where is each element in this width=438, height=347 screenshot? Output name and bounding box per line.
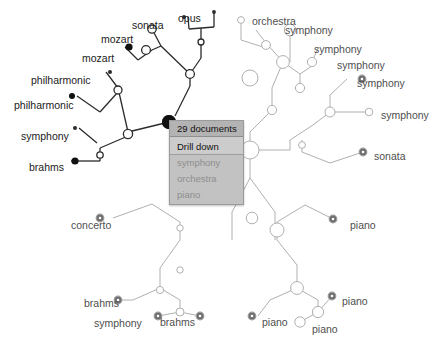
tree-edge-active [100,136,128,148]
tree-node-dim[interactable] [177,267,183,273]
tree-edge-dim [160,240,180,268]
context-menu-option-symphony[interactable]: symphony [170,155,243,171]
tree-node-dim[interactable] [267,105,276,114]
node-label-symphony-r5: symphony [381,110,429,121]
tree-leaf-node-small[interactable] [73,126,77,130]
tree-node-active[interactable] [186,70,195,79]
node-label-sonata-top: sonata [132,20,164,31]
tree-node-dim[interactable] [177,225,183,231]
node-label-mozart-1: mozart [101,34,133,45]
tree-leaf-node-core [362,151,365,154]
node-label-piano-r3: piano [262,317,288,328]
node-label-symphony-r2: symphony [314,44,362,55]
node-label-symphony-left: symphony [21,131,69,142]
tree-node-active[interactable] [142,46,151,55]
tree-edge-dim [277,205,305,222]
tree-leaf-node-core [331,295,334,298]
tree-edge-dim [258,300,270,316]
node-label-symphony-r3: symphony [337,60,385,71]
context-menu-option-orchestra[interactable]: orchestra [170,171,243,187]
node-label-brahms-b1: brahms [84,298,119,309]
tree-edge-active [152,46,161,50]
tree-edge-dim [277,240,297,265]
tree-node-dim[interactable] [307,57,316,66]
visualization-canvas: sonataopusmozartmozartphilharmonicphilha… [0,0,438,347]
node-label-symphony-r1: symphony [285,25,333,36]
node-label-mozart-2: mozart [82,53,114,64]
tree-leaf-node-small[interactable] [212,10,216,14]
node-label-symphony-b: symphony [94,318,142,329]
tree-node-dim[interactable] [299,142,306,149]
node-label-piano-r4: piano [312,324,338,335]
tree-node-dim[interactable] [291,282,304,295]
tree-edge-active [161,46,190,74]
tree-node-dim[interactable] [325,107,335,117]
tree-edge-dim [290,125,313,140]
node-label-symphony-r4: symphony [357,78,405,89]
tree-leaf-node-core [251,315,254,318]
node-label-brahms-left: brahms [29,162,64,173]
node-label-philharmonic-2: philharmonic [14,100,74,111]
node-label-concerto-b: concerto [71,220,111,231]
tree-edge-active [79,128,97,143]
tree-node-dim[interactable] [295,317,305,327]
tree-edge-dim [330,152,363,163]
tree-node-dim[interactable] [246,212,258,224]
tree-node-active[interactable] [114,86,122,94]
tree-leaf-node-core [157,315,160,318]
tree-edge-dim [300,66,312,74]
tree-edge-dim [302,152,330,163]
context-menu-drill-down[interactable]: Drill down [170,137,243,155]
tree-edge-dim [250,178,275,212]
tree-leaf-node-core [199,315,202,318]
tree-edge-active [106,72,118,88]
tree-leaf-node-active[interactable] [71,157,78,164]
node-label-opus-top: opus [178,13,201,24]
tree-edge-active [118,88,128,132]
tree-edge-active [100,92,118,112]
tree-edge-active [77,96,100,112]
tree-node-dim[interactable] [242,70,258,86]
tree-edge-dim [113,204,152,218]
tree-leaf-node-core [332,218,335,221]
tree-node-active[interactable] [123,129,132,138]
tree-node-dim[interactable] [295,83,304,92]
node-label-sonata-r: sonata [374,151,406,162]
context-menu-option-piano[interactable]: piano [170,187,243,204]
tree-edge-active [175,86,190,116]
tree-edge-dim [152,204,180,222]
tree-node-dim[interactable] [270,223,284,237]
tree-node-dim[interactable] [156,286,163,293]
tree-node-active[interactable] [97,152,103,158]
tree-edge-dim [330,79,347,95]
tree-node-dim[interactable] [176,308,184,316]
tree-node-dim[interactable] [365,108,373,116]
tree-leaf-node-small[interactable] [108,70,112,74]
tree-node-dim[interactable] [277,56,290,69]
context-menu-header: 29 documents [170,121,243,137]
node-label-philharmonic-1: philharmonic [31,75,91,86]
tree-node-active[interactable] [198,39,204,45]
node-label-piano-r2: piano [342,296,368,307]
tree-edge-dim [305,205,333,219]
tree-node-dim[interactable] [312,306,323,317]
drill-down-context-menu[interactable]: 29 documents Drill down symphony orchest… [169,120,244,205]
node-label-brahms-b2: brahms [160,317,195,328]
tree-node-dim[interactable] [238,17,245,24]
node-label-piano-r1: piano [350,220,376,231]
tree-node-dim[interactable] [262,41,271,50]
